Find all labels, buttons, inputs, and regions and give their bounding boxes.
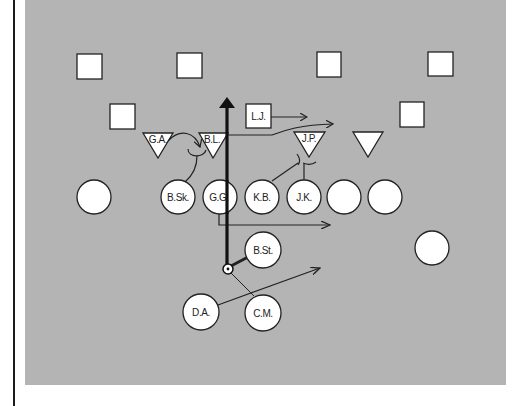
defender-triangle: [353, 132, 383, 157]
label-lj: L.J.: [251, 111, 266, 122]
defender-square: [110, 104, 135, 129]
label-da: D.A.: [192, 307, 210, 318]
label-kb: K.B.: [253, 192, 270, 203]
label-bl: B.L.: [204, 134, 220, 145]
route-gg: [219, 214, 330, 225]
player-circle: [327, 180, 361, 214]
main-arrowhead-icon: [219, 97, 235, 108]
play-diagram: L.J. G.A. B.L. J.P.: [0, 0, 514, 406]
block-kb: [272, 163, 298, 181]
player-circle: [77, 180, 111, 214]
route-ga: [168, 133, 200, 147]
label-jp: J.P.: [302, 133, 316, 144]
route-cm: [231, 273, 254, 296]
ball-center-dot: [227, 268, 230, 271]
block-bracket-bl: [188, 149, 206, 156]
defender-square: [400, 102, 424, 127]
block-bsk: [185, 156, 197, 182]
label-bsk: B.Sk.: [167, 192, 189, 203]
defender-square: [317, 52, 341, 77]
player-circle: [368, 180, 402, 214]
handoff-bst: [231, 257, 248, 266]
player-circle: [415, 231, 449, 265]
defense-triangles: [143, 132, 383, 158]
label-gg: G.G.: [209, 192, 229, 203]
label-bst: B.St.: [253, 245, 273, 256]
defender-square: [428, 52, 453, 76]
label-jk: J.K.: [296, 192, 312, 203]
label-ga: G.A.: [149, 134, 167, 145]
block-bracket-jp-right: [303, 162, 316, 164]
defender-square: [77, 54, 102, 79]
defender-square: [177, 53, 202, 78]
label-cm: C.M.: [253, 308, 273, 319]
